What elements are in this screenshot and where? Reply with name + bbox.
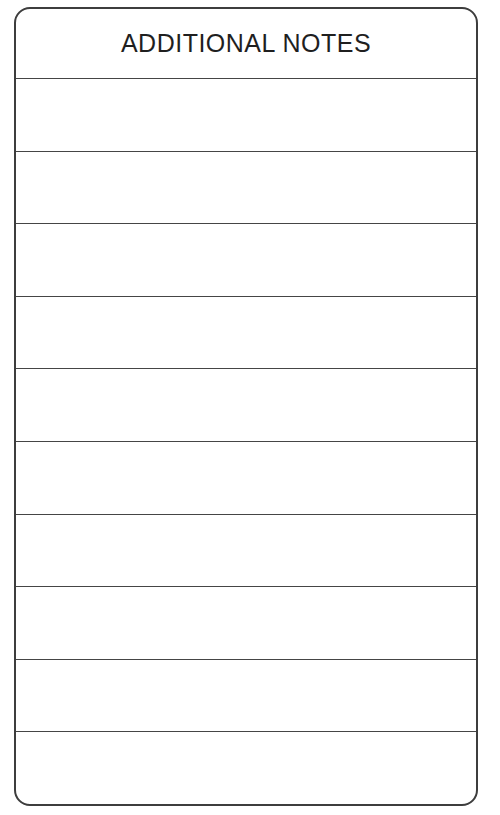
note-line	[16, 442, 476, 515]
note-line	[16, 297, 476, 370]
note-line	[16, 224, 476, 297]
page-title: ADDITIONAL NOTES	[121, 29, 371, 58]
note-line	[16, 732, 476, 804]
additional-notes-card: ADDITIONAL NOTES	[14, 7, 478, 806]
note-line	[16, 660, 476, 733]
note-line	[16, 79, 476, 152]
note-line	[16, 152, 476, 225]
card-header: ADDITIONAL NOTES	[16, 9, 476, 79]
note-line	[16, 369, 476, 442]
note-line	[16, 587, 476, 660]
note-line	[16, 515, 476, 588]
note-rows	[16, 79, 476, 804]
